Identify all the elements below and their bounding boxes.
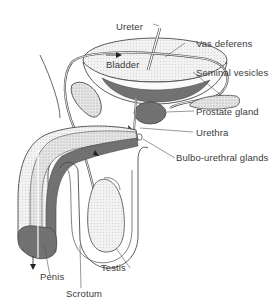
prostate-gland-shape [134, 102, 166, 124]
body-contour-line [40, 55, 60, 118]
penis-label: Penis [40, 271, 64, 282]
urethra-label: Urethra [196, 127, 228, 138]
seminal-vesicles-label: Seminal vesicles [196, 67, 268, 78]
pubic-bone-shape [71, 82, 101, 117]
bladder-label: Bladder [106, 59, 139, 70]
ureter-label: Ureter [116, 21, 143, 32]
reproductive-anatomy-diagram: Ureter Bladder Vas deferens Seminal vesi… [0, 0, 274, 304]
testis-label: Testis [101, 262, 126, 273]
testis-shape [88, 179, 125, 252]
scrotum-label: Scrotum [66, 288, 102, 299]
prostate-gland-label: Prostate gland [196, 106, 259, 117]
bulbo-urethral-glands-label: Bulbo-urethral glands [176, 152, 268, 163]
vas-deferens-label: Vas deferens [196, 38, 252, 49]
